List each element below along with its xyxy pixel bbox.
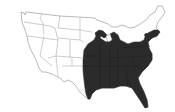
shaded-range-region	[83, 30, 160, 108]
range-map: United States range map	[0, 0, 175, 112]
us-map-svg	[0, 0, 175, 112]
new-york-marker	[144, 33, 148, 37]
